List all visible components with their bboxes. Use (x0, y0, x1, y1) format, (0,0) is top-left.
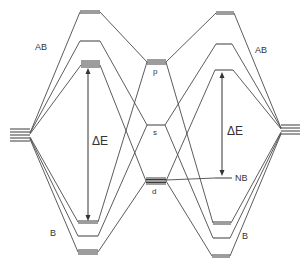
center-levels (146, 60, 166, 184)
s-orbital-label: s (153, 128, 157, 137)
right-bonding-label: B (242, 231, 248, 241)
right-delta-e-arrow (220, 72, 225, 176)
center-right-lines (165, 13, 216, 256)
mo-diagram: AB B AB B ΔE ΔE NB p s d (0, 0, 308, 266)
right-antibonding-label: AB (255, 45, 267, 55)
right-atomic-levels (281, 125, 300, 134)
left-delta-e-arrow (86, 68, 91, 221)
center-left-lines (98, 12, 147, 252)
p-orbital-label: p (153, 67, 158, 76)
nonbonding-label: NB (235, 173, 248, 183)
d-orbital-label: d (152, 187, 156, 196)
right-delta-e-label: ΔE (227, 124, 243, 138)
left-antibonding-label: AB (35, 42, 47, 52)
left-delta-e-label: ΔE (92, 134, 108, 148)
left-bonding-label: B (50, 228, 56, 238)
left-atomic-levels (10, 129, 30, 141)
